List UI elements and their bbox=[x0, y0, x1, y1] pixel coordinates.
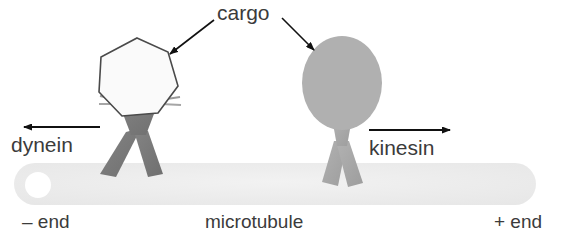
microtubule-bar bbox=[14, 163, 536, 205]
microtubule-label: microtubule bbox=[205, 212, 303, 231]
kinesin-cargo-oval bbox=[302, 36, 382, 130]
plus-end-label: + end bbox=[494, 212, 542, 231]
minus-end-marker-circle bbox=[25, 172, 51, 198]
dynein-label: dynein bbox=[11, 134, 73, 155]
cargo-pointer-left-arrow bbox=[170, 20, 214, 54]
dynein-motor bbox=[99, 38, 181, 177]
cargo-pointer-right-arrow bbox=[282, 18, 314, 50]
kinesin-label: kinesin bbox=[369, 137, 434, 158]
minus-end-label: – end bbox=[22, 212, 70, 231]
motor-protein-diagram: cargo dynein kinesin – end microtubule +… bbox=[0, 0, 576, 248]
cargo-label: cargo bbox=[217, 2, 270, 23]
